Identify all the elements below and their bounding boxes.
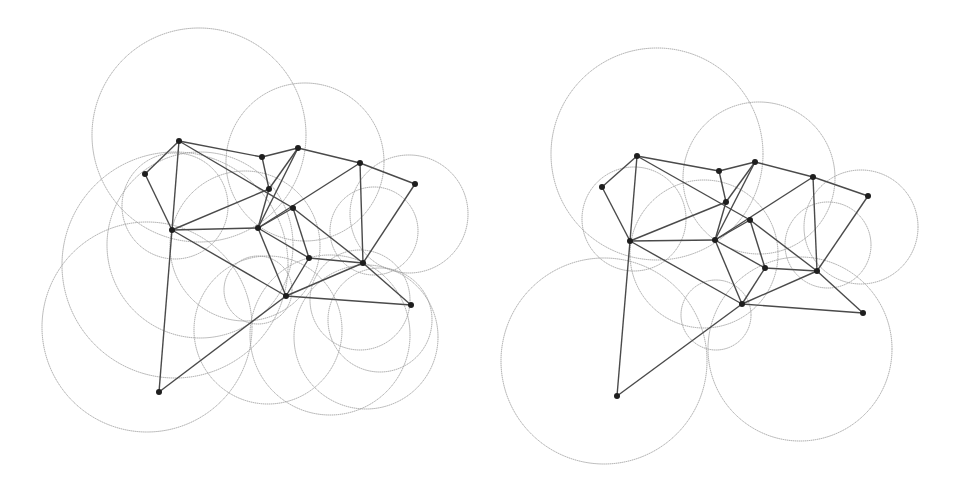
graph-edge xyxy=(286,263,363,296)
graph-edge xyxy=(630,241,742,304)
graph-node xyxy=(357,160,363,166)
graph-edge xyxy=(630,202,726,241)
left-graph xyxy=(42,28,468,432)
graph-node xyxy=(142,171,148,177)
graph-edge xyxy=(630,156,637,241)
graph-node xyxy=(360,260,366,266)
graph-edge xyxy=(159,296,286,392)
neighborhood-circle xyxy=(328,268,432,372)
right-graph xyxy=(501,48,918,464)
neighborhood-circle xyxy=(294,265,438,409)
neighborhood-circle xyxy=(501,258,707,464)
graph-node xyxy=(752,159,758,165)
graph-edge xyxy=(637,156,750,220)
graph-edge xyxy=(750,220,817,271)
graph-node xyxy=(762,265,768,271)
graph-node xyxy=(306,255,312,261)
left-graph-circles xyxy=(42,28,468,432)
graph-edge xyxy=(363,184,415,263)
graph-node xyxy=(266,186,272,192)
graph-node xyxy=(176,138,182,144)
graph-edge xyxy=(298,148,360,163)
graph-node xyxy=(408,302,414,308)
neighborhood-circle xyxy=(42,222,252,432)
graph-node xyxy=(169,227,175,233)
graph-node xyxy=(627,238,633,244)
graph-edge xyxy=(755,162,813,177)
neighborhood-circle xyxy=(708,257,892,441)
right-graph-edges xyxy=(602,156,868,396)
graph-edge xyxy=(719,171,726,202)
right-graph-circles xyxy=(501,48,918,464)
graph-node xyxy=(283,293,289,299)
neighborhood-circle xyxy=(804,170,918,284)
graph-edge xyxy=(179,141,293,208)
graph-edge xyxy=(765,268,817,271)
graph-edge xyxy=(286,296,411,305)
graph-node xyxy=(599,184,605,190)
graph-node xyxy=(810,174,816,180)
graph-edge xyxy=(742,304,863,313)
graph-edge xyxy=(258,163,360,228)
graph-edge xyxy=(258,228,286,296)
graph-node xyxy=(614,393,620,399)
graph-node xyxy=(814,268,820,274)
neighborhood-circle xyxy=(551,48,763,260)
neighborhood-circle xyxy=(785,202,871,288)
graph-edge xyxy=(309,258,363,263)
graph-edge xyxy=(172,228,258,230)
neighborhood-circle xyxy=(681,280,751,350)
graph-edge xyxy=(172,230,286,296)
neighborhood-circle xyxy=(250,255,410,415)
graph-node xyxy=(634,153,640,159)
graph-edge xyxy=(145,141,179,174)
graph-node xyxy=(860,310,866,316)
diagram-canvas xyxy=(0,0,954,492)
graph-node xyxy=(156,389,162,395)
graph-edge xyxy=(602,187,630,241)
graph-node xyxy=(723,199,729,205)
graph-node xyxy=(412,181,418,187)
neighborhood-circle xyxy=(582,167,686,271)
graph-node xyxy=(712,237,718,243)
neighborhood-circle xyxy=(122,153,228,259)
graph-edge xyxy=(360,163,415,184)
graph-edge xyxy=(817,196,868,271)
graph-edge xyxy=(630,240,715,241)
graph-node xyxy=(747,217,753,223)
graph-edge xyxy=(363,263,411,305)
graph-node xyxy=(255,225,261,231)
left-graph-edges xyxy=(145,141,415,392)
graph-edge xyxy=(159,230,172,392)
graph-node xyxy=(290,205,296,211)
neighborhood-circle xyxy=(92,28,306,242)
graph-node xyxy=(739,301,745,307)
graph-node xyxy=(295,145,301,151)
graph-edge xyxy=(715,240,742,304)
graph-node xyxy=(259,154,265,160)
graph-node xyxy=(716,168,722,174)
graph-edge xyxy=(602,156,637,187)
graph-edge xyxy=(617,241,630,396)
graph-node xyxy=(865,193,871,199)
graph-edge xyxy=(172,189,269,230)
graph-edge xyxy=(617,304,742,396)
neighborhood-circle xyxy=(170,171,320,321)
left-graph-nodes xyxy=(142,138,418,395)
